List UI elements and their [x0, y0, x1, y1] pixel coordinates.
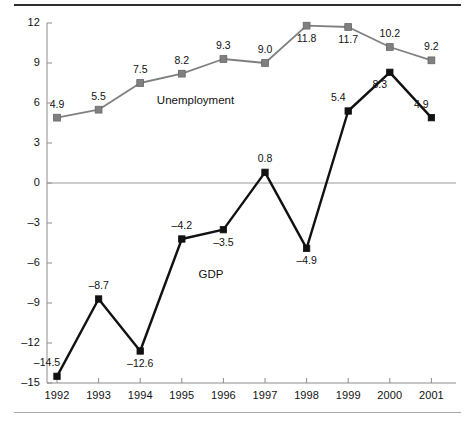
point-value-label: 8.3: [361, 78, 399, 90]
series-annotation-unemployment: Unemployment: [157, 94, 234, 106]
point-value-label: 11.7: [329, 33, 367, 45]
point-value-label: 9.0: [246, 43, 284, 55]
y-tick-label: –12: [14, 336, 40, 348]
x-tick-label: 1995: [162, 389, 202, 401]
y-tick-label: –15: [14, 376, 40, 388]
point-value-label: –4.9: [288, 254, 326, 266]
point-value-label: 4.9: [402, 98, 440, 110]
y-tick-label: –3: [14, 216, 40, 228]
y-tick-label: 6: [14, 96, 40, 108]
x-tick-label: 1996: [203, 389, 243, 401]
x-tick-label: 2000: [370, 389, 410, 401]
y-tick-label: –9: [14, 296, 40, 308]
point-value-label: –14.5: [28, 356, 66, 368]
point-value-label: 9.3: [204, 39, 242, 51]
y-tick-label: 0: [14, 176, 40, 188]
x-tick-label: 2001: [411, 389, 451, 401]
series-annotation-gdp: GDP: [198, 268, 223, 280]
line-chart-plot: [0, 0, 472, 426]
x-tick-label: 1998: [287, 389, 327, 401]
point-value-label: –4.2: [163, 219, 201, 231]
point-value-label: 8.2: [163, 54, 201, 66]
point-value-label: –3.5: [204, 236, 242, 248]
y-tick-label: 9: [14, 56, 40, 68]
point-value-label: 4.9: [38, 98, 76, 110]
x-tick-label: 1993: [79, 389, 119, 401]
series-group: [54, 22, 435, 379]
x-tick-label: 1992: [37, 389, 77, 401]
point-value-label: 11.8: [288, 32, 326, 44]
chart-figure: 129630–3–6–9–12–15 199219931994199519961…: [0, 0, 472, 426]
x-tick-label: 1994: [120, 389, 160, 401]
point-value-label: –8.7: [80, 279, 118, 291]
point-value-label: 7.5: [121, 63, 159, 75]
point-value-label: 5.4: [319, 91, 357, 103]
point-value-label: 10.2: [371, 27, 409, 39]
y-tick-label: –6: [14, 256, 40, 268]
x-tick-label: 1999: [328, 389, 368, 401]
point-value-label: 0.8: [246, 152, 284, 164]
y-tick-label: 3: [14, 136, 40, 148]
x-tick-label: 1997: [245, 389, 285, 401]
y-tick-label: 12: [14, 16, 40, 28]
point-value-label: 9.2: [412, 40, 450, 52]
point-value-label: 5.5: [80, 90, 118, 102]
point-value-label: –12.6: [121, 357, 159, 369]
